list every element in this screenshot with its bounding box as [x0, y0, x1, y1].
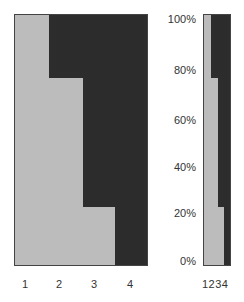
- x-tick-1: 1: [15, 278, 35, 290]
- y-tick-60: 60%: [160, 114, 196, 126]
- y-tick-0: 0%: [160, 255, 196, 267]
- x-tick-4: 4: [120, 278, 140, 290]
- main-chart-panel: [14, 14, 148, 266]
- narrow-light-col-1: [204, 15, 211, 266]
- narrow-chart-panel: [203, 14, 231, 266]
- light-region-col-1: [15, 15, 49, 266]
- light-region-col-2: [49, 78, 83, 266]
- y-tick-80: 80%: [160, 64, 196, 76]
- x-tick-3: 3: [84, 278, 104, 290]
- light-region-col-3: [83, 207, 115, 266]
- narrow-light-col-2: [211, 78, 218, 266]
- narrow-light-col-3: [218, 207, 224, 266]
- y-tick-20: 20%: [160, 207, 196, 219]
- y-tick-100: 100%: [160, 13, 196, 25]
- x-tick-2: 2: [49, 278, 69, 290]
- narrow-x-ticks: 1234: [202, 278, 228, 290]
- y-tick-40: 40%: [160, 161, 196, 173]
